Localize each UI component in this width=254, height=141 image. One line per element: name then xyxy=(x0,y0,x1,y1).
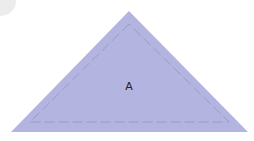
triangle-figure xyxy=(0,0,254,141)
piece-label: A xyxy=(123,80,135,93)
triangle-piece xyxy=(11,11,248,132)
diagram-canvas: A xyxy=(0,0,254,141)
